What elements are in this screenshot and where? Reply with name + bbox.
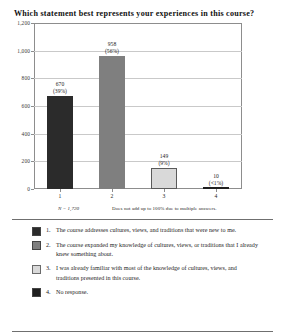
x-tick-label-2: 2 [97,193,127,199]
divider-top [12,219,273,220]
legend-item-number: 1. [46,226,56,236]
x-tick-mark [60,189,61,192]
y-tick-label: 1,000 [17,48,30,54]
plot-area: 670 (39%) 958 (56%) 149 (9%) 10 (<1%) [34,23,242,189]
y-axis: 1,200 1,000 800 600 400 200 0 [0,23,30,189]
x-tick-label-4: 4 [201,193,231,199]
legend: 1. The course addresses cultures, views,… [12,226,274,302]
y-tick-label: 1,200 [17,20,30,26]
bar-1-percent-label: (39%) [53,88,67,95]
y-tick-label: 0 [27,186,30,192]
bar-group-3: 149 (9%) [138,23,190,189]
legend-swatch-icon [32,265,41,274]
x-tick-mark [112,189,113,192]
legend-item-number: 2. [46,241,56,251]
legend-item-1[interactable]: 1. The course addresses cultures, views,… [12,226,274,236]
bar-4-value-label: 10 [213,173,219,180]
x-tick-mark [216,189,217,192]
bar-1-value-label: 670 [56,81,64,88]
legend-item-3[interactable]: 3. I was already familiar with most of t… [12,264,274,283]
legend-item-4[interactable]: 4. No response. [12,288,274,298]
legend-item-2[interactable]: 2. The course expanded my knowledge of c… [12,241,274,260]
x-tick-label-3: 3 [149,193,179,199]
bar-2-percent-label: (56%) [105,48,119,55]
y-tick-label: 800 [22,75,30,81]
bar-4-percent-label: (<1%) [209,180,223,187]
divider-bottom [12,331,273,332]
legend-item-label: The course addresses cultures, views, an… [56,226,274,236]
page-title: Which statement best represents your exp… [14,9,276,19]
footnote: N = 1,720 Does not add up to 100% due to… [34,206,242,216]
x-axis: 1 2 3 4 [34,189,242,203]
figure-container: Which statement best represents your exp… [0,0,285,336]
bar-group-1: 670 (39%) [34,23,86,189]
x-tick-label-1: 1 [45,193,75,199]
legend-swatch-icon [32,227,41,236]
legend-swatch-icon [32,288,41,297]
x-tick-mark [164,189,165,192]
bar-2-value-label: 958 [108,41,116,48]
legend-item-label: The course expanded my knowledge of cult… [56,241,274,260]
bar-3[interactable] [151,168,177,189]
sample-size-note: N = 1,720 [58,206,79,211]
multiple-answers-note: Does not add up to 100% due to multiple … [112,206,217,211]
bar-3-percent-label: (9%) [158,160,169,167]
bar-group-2: 958 (56%) [86,23,138,189]
bar-1[interactable] [47,96,73,189]
legend-item-label: No response. [56,288,274,298]
legend-item-label: I was already familiar with most of the … [56,264,274,283]
legend-swatch-icon [32,241,41,250]
y-tick-label: 400 [22,131,30,137]
bar-group-4: 10 (<1%) [190,23,242,189]
legend-item-number: 4. [46,288,56,298]
bar-3-value-label: 149 [160,153,168,160]
y-tick-label: 200 [22,158,30,164]
legend-item-number: 3. [46,264,56,274]
bars-layer: 670 (39%) 958 (56%) 149 (9%) 10 (<1%) [34,23,242,189]
y-tick-label: 600 [22,103,30,109]
bar-2[interactable] [99,56,125,189]
